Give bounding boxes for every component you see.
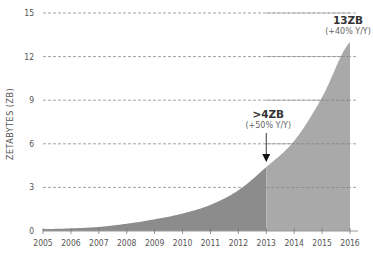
- y-tick-label: 0: [29, 226, 34, 236]
- projected-area: [266, 42, 350, 231]
- x-tick-label: 2013: [257, 238, 277, 248]
- historical-area: [43, 167, 266, 231]
- annotation-label: 13ZB: [333, 14, 363, 26]
- x-tick-label: 2014: [284, 238, 304, 248]
- annotation-label: >4ZB: [252, 108, 284, 120]
- x-tick-label: 2005: [33, 238, 53, 248]
- x-tick-label: 2008: [117, 238, 137, 248]
- x-tick-label: 2006: [61, 238, 81, 248]
- arrow-down-icon: [262, 154, 270, 162]
- x-tick-label: 2016: [340, 238, 360, 248]
- y-tick-label: 12: [24, 52, 34, 62]
- x-tick-label: 2010: [173, 238, 193, 248]
- y-axis-title: ZETABYTES (ZB): [6, 88, 15, 160]
- y-tick-label: 15: [24, 8, 34, 18]
- x-axis-labels: 2005200620072008200920102011201220132014…: [33, 238, 360, 248]
- area-fill: [43, 42, 350, 231]
- x-tick-label: 2011: [201, 238, 221, 248]
- x-tick-label: 2007: [89, 238, 109, 248]
- y-axis-labels: 03691215: [24, 8, 34, 236]
- y-tick-label: 6: [29, 139, 34, 149]
- area-chart: 03691215 2005200620072008200920102011201…: [0, 0, 373, 260]
- annotation-sublabel: (+40% Y/Y): [325, 27, 371, 36]
- y-tick-label: 3: [29, 182, 34, 192]
- y-tick-label: 9: [29, 95, 34, 105]
- x-tick-label: 2012: [229, 238, 249, 248]
- x-tick-label: 2015: [312, 238, 332, 248]
- x-tick-label: 2009: [145, 238, 165, 248]
- annotation-sublabel: (+50% Y/Y): [245, 121, 291, 130]
